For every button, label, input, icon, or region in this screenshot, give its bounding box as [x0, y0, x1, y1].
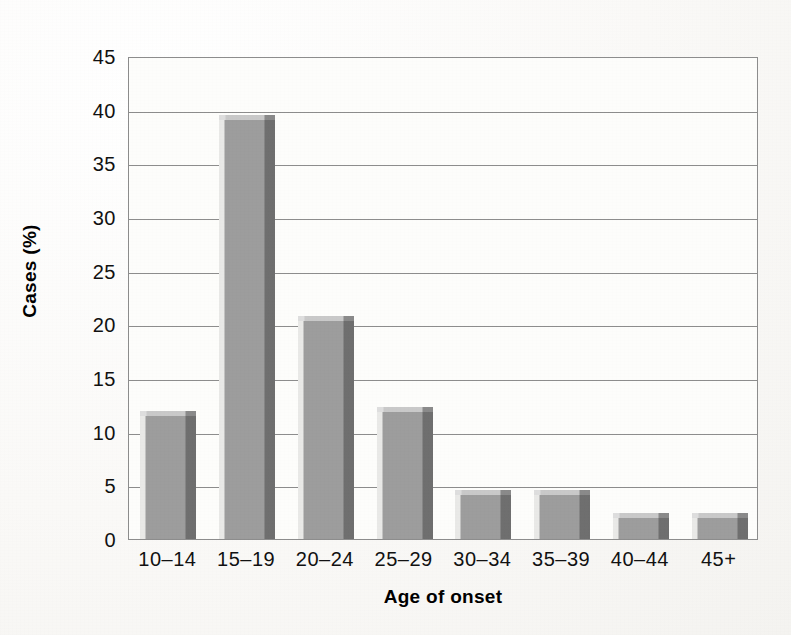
x-axis-tick-label: 20–24 [296, 548, 354, 571]
bar-top-face [219, 115, 275, 120]
x-axis-tick-label: 15–19 [217, 548, 275, 571]
bar-body [377, 407, 433, 539]
y-axis-tick-label: 10 [46, 421, 116, 444]
x-axis-tick-label: 30–34 [453, 548, 511, 571]
y-axis-tick-label: 20 [46, 314, 116, 337]
chart-page: Cases (%) 051015202530354045 10–1415–192… [0, 0, 791, 635]
bar-body [613, 513, 669, 539]
bar [455, 58, 511, 539]
bar-body [692, 513, 748, 539]
bar-top-face [534, 490, 590, 495]
bar-body [298, 316, 354, 539]
x-axis-title: Age of onset [128, 586, 758, 608]
x-axis-tick-label: 45+ [701, 548, 736, 571]
y-axis-tick-label: 45 [46, 46, 116, 69]
bar [298, 58, 354, 539]
bar-top-face [377, 407, 433, 412]
y-axis-tick-label: 35 [46, 153, 116, 176]
bar [692, 58, 748, 539]
bar-top-face [613, 513, 669, 518]
bar-body [534, 490, 590, 539]
y-axis-tick-label: 15 [46, 368, 116, 391]
bar-body [455, 490, 511, 539]
y-axis-tick-label: 0 [46, 529, 116, 552]
y-axis-tick-labels: 051015202530354045 [42, 57, 116, 540]
bar-top-face [692, 513, 748, 518]
bar-top-face [140, 411, 196, 416]
y-axis-tick-label: 40 [46, 99, 116, 122]
y-axis-tick-label: 5 [46, 475, 116, 498]
bar-body [140, 411, 196, 539]
y-axis-title: Cases (%) [19, 181, 41, 361]
bar [219, 58, 275, 539]
plot-area [128, 57, 758, 540]
x-axis-tick-label: 25–29 [375, 548, 433, 571]
x-axis-tick-label: 40–44 [611, 548, 669, 571]
bar-top-face [455, 490, 511, 495]
bar [377, 58, 433, 539]
bar-body [219, 115, 275, 539]
bar-top-face [298, 316, 354, 321]
y-axis-tick-label: 25 [46, 260, 116, 283]
x-axis-tick-label: 10–14 [138, 548, 196, 571]
bar [140, 58, 196, 539]
bar [613, 58, 669, 539]
y-axis-tick-label: 30 [46, 207, 116, 230]
x-axis-tick-label: 35–39 [532, 548, 590, 571]
x-axis-tick-labels: 10–1415–1920–2425–2930–3435–3940–4445+ [128, 548, 758, 582]
bar [534, 58, 590, 539]
